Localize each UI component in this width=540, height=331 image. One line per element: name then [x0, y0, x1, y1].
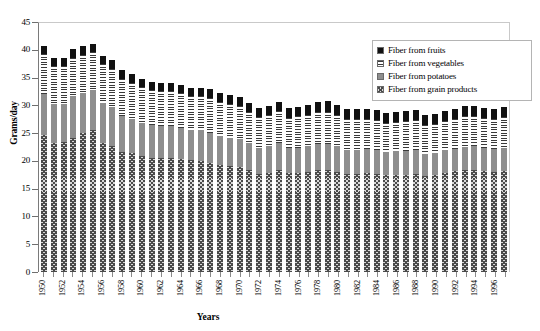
bar-segment-fiber-from-grain-products [168, 158, 174, 272]
bar-segment-fiber-from-fruits [383, 113, 389, 123]
x-axis-tickmark [207, 272, 213, 278]
x-axis-label-slot: 1966 [197, 280, 203, 316]
x-axis-label-slot [463, 280, 469, 316]
x-axis-tickmark [50, 272, 56, 278]
bar-segment-fiber-from-fruits [413, 110, 419, 120]
bar-segment-fiber-from-potatoes [61, 104, 67, 142]
bar-segment-fiber-from-potatoes [383, 152, 389, 175]
bar-segment-fiber-from-grain-products [432, 175, 438, 272]
bar-1990 [432, 114, 438, 272]
x-axis-label-slot: 1958 [119, 280, 125, 316]
bar-segment-fiber-from-grain-products [403, 175, 409, 272]
bar-1987 [403, 111, 409, 272]
x-axis-label-1996: 1996 [491, 280, 499, 296]
bar-segment-fiber-from-fruits [354, 109, 360, 119]
bar-1969 [227, 95, 233, 272]
bar-segment-fiber-from-fruits [491, 109, 497, 119]
bar-segment-fiber-from-vegetables [276, 111, 282, 143]
bar-segment-fiber-from-vegetables [198, 96, 204, 130]
bar-segment-fiber-from-fruits [109, 60, 115, 68]
y-axis-label-35: 35 [0, 73, 30, 82]
x-axis-label-1954: 1954 [78, 280, 86, 296]
bar-segment-fiber-from-fruits [501, 107, 507, 117]
bar-segment-fiber-from-grain-products [266, 173, 272, 272]
bar-1994 [471, 106, 477, 272]
bar-segment-fiber-from-potatoes [178, 128, 184, 159]
bar-1962 [158, 83, 164, 272]
x-axis-tickmark [315, 272, 321, 278]
bar-segment-fiber-from-grain-products [364, 173, 370, 272]
x-axis-label-slot [89, 280, 95, 316]
bar-segment-fiber-from-fruits [403, 111, 409, 121]
x-axis-label-1970: 1970 [235, 280, 243, 296]
x-axis-tickmark [433, 272, 439, 278]
bar-segment-fiber-from-potatoes [403, 151, 409, 174]
bar-segment-fiber-from-grain-products [80, 133, 86, 272]
x-axis-label-1962: 1962 [157, 280, 165, 296]
bar-segment-fiber-from-vegetables [295, 116, 301, 147]
x-axis-label-1974: 1974 [275, 280, 283, 296]
x-axis-label-1950: 1950 [39, 280, 47, 296]
bar-segment-fiber-from-vegetables [207, 98, 213, 132]
bar-segment-fiber-from-fruits [51, 58, 57, 66]
bar-segment-fiber-from-potatoes [266, 146, 272, 172]
bar-segment-fiber-from-vegetables [109, 69, 115, 107]
x-axis-label-slot: 1996 [492, 280, 498, 316]
bar-segment-fiber-from-fruits [266, 106, 272, 115]
x-axis-label-1956: 1956 [98, 280, 106, 296]
bar-segment-fiber-from-grain-products [246, 170, 252, 272]
bar-segment-fiber-from-fruits [41, 46, 47, 54]
bar-1978 [315, 102, 321, 272]
bar-1963 [168, 83, 174, 272]
x-axis-tickmark [119, 272, 125, 278]
bar-segment-fiber-from-grain-products [452, 171, 458, 272]
bar-segment-fiber-from-vegetables [61, 66, 67, 104]
y-axis-label-25: 25 [0, 129, 30, 138]
bar-segment-fiber-from-potatoes [393, 151, 399, 174]
x-axis-tickmark [237, 272, 243, 278]
bar-segment-fiber-from-potatoes [246, 143, 252, 170]
x-axis-label-slot [345, 280, 351, 316]
bar-segment-fiber-from-potatoes [344, 150, 350, 174]
bar-segment-fiber-from-fruits [286, 108, 292, 117]
x-axis-label-slot: 1974 [276, 280, 282, 316]
bar-segment-fiber-from-potatoes [158, 126, 164, 158]
x-axis-tickmark [227, 272, 233, 278]
bar-1989 [422, 115, 428, 272]
bar-segment-fiber-from-vegetables [256, 117, 262, 148]
x-axis-label-1994: 1994 [471, 280, 479, 296]
bar-segment-fiber-from-potatoes [364, 149, 370, 173]
bar-segment-fiber-from-potatoes [286, 148, 292, 173]
x-axis-label-slot [187, 280, 193, 316]
x-axis-tickmark [40, 272, 46, 278]
bar-segment-fiber-from-potatoes [325, 144, 331, 170]
bar-segment-fiber-from-grain-products [178, 159, 184, 272]
bar-1985 [383, 113, 389, 272]
x-axis-label-slot [227, 280, 233, 316]
x-axis-label-slot: 1972 [256, 280, 262, 316]
solid-gray-icon [377, 73, 384, 80]
bar-segment-fiber-from-grain-products [51, 143, 57, 272]
bar-segment-fiber-from-fruits [80, 46, 86, 54]
x-axis-label-slot [168, 280, 174, 316]
bar-segment-fiber-from-potatoes [334, 146, 340, 172]
x-axis-label-slot [384, 280, 390, 316]
bar-segment-fiber-from-vegetables [149, 90, 155, 125]
bar-segment-fiber-from-fruits [393, 112, 399, 122]
bar-segment-fiber-from-grain-products [198, 161, 204, 272]
bar-segment-fiber-from-grain-products [393, 175, 399, 272]
bar-segment-fiber-from-grain-products [413, 174, 419, 272]
x-axis-tickmark [364, 272, 370, 278]
x-axis-tickmark [246, 272, 252, 278]
bar-segment-fiber-from-fruits [158, 83, 164, 91]
x-axis-label-1986: 1986 [393, 280, 401, 296]
bar-segment-fiber-from-fruits [188, 88, 194, 96]
bar-segment-fiber-from-grain-products [442, 173, 448, 272]
bar-segment-fiber-from-vegetables [491, 119, 497, 149]
checkered-icon [377, 86, 384, 93]
bar-segment-fiber-from-grain-products [207, 163, 213, 272]
x-axis-tickmark [404, 272, 410, 278]
bar-segment-fiber-from-vegetables [315, 112, 321, 144]
bar-segment-fiber-from-grain-products [217, 165, 223, 272]
bar-segment-fiber-from-grain-products [61, 142, 67, 272]
